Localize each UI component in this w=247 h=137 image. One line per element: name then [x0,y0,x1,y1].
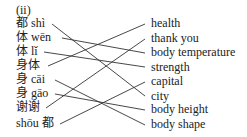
line-tili-strength [44,52,145,67]
line-tiwen-body-temperature [62,38,145,53]
connection-lines [0,0,247,137]
line-shengao-body-height [55,94,145,110]
line-xiexie-thank-you [46,39,145,108]
line-shoudu-capital [60,82,145,124]
line-shencai-body-shape [55,80,145,125]
